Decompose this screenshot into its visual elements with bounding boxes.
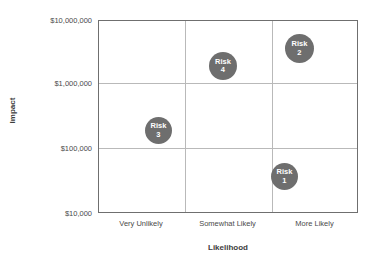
x-tick-more-likely: More Likely	[271, 219, 358, 228]
data-point-risk-2[interactable]: Risk 2	[285, 34, 314, 63]
y-axis-title: Impact	[8, 81, 17, 141]
y-tick-1000000: $1,000,000	[54, 79, 92, 88]
data-point-label-id: 4	[221, 66, 225, 74]
gridline-horizontal-1000000	[99, 83, 357, 84]
risk-matrix-chart: $10,000,000 $1,000,000 $100,000 $10,000 …	[0, 0, 376, 266]
gridline-vertical-1	[185, 21, 186, 212]
x-tick-somewhat-likely: Somewhat Likely	[184, 219, 271, 228]
y-tick-10000: $10,000	[65, 209, 92, 218]
data-point-label-id: 2	[297, 49, 301, 57]
plot-area: Risk 3 Risk 4 Risk 2 Risk 1	[98, 20, 358, 213]
data-point-risk-4[interactable]: Risk 4	[209, 52, 237, 80]
y-tick-10000000: $10,000,000	[50, 16, 92, 25]
data-point-label-id: 3	[156, 131, 160, 139]
x-axis-title: Likelihood	[98, 243, 358, 252]
data-point-risk-1[interactable]: Risk 1	[271, 163, 298, 190]
x-tick-very-unlikely: Very Unlikely	[98, 219, 184, 228]
data-point-risk-3[interactable]: Risk 3	[145, 117, 172, 144]
data-point-label-id: 1	[282, 177, 286, 185]
gridline-horizontal-100000	[99, 148, 357, 149]
y-tick-100000: $100,000	[61, 144, 92, 153]
